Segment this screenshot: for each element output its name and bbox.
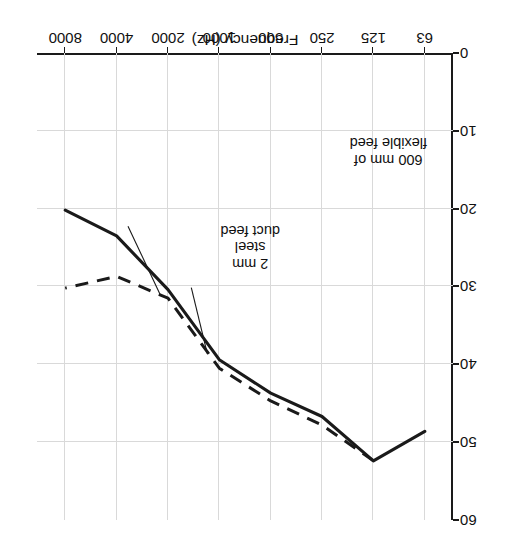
figure-root: 0102030405060 63125250500100020004000800… (0, 0, 517, 541)
series-600mm-flexible-feed (65, 276, 373, 460)
leader-line-steel (191, 288, 207, 354)
leader-line-flexible (128, 226, 160, 294)
y-tick-label: 10 (453, 124, 506, 139)
y-tick-label: 60 (453, 513, 506, 528)
y-tick-label: 50 (453, 435, 506, 450)
plot-area: 0102030405060 63125250500100020004000800… (37, 53, 453, 520)
data-curves (37, 53, 453, 520)
annotation-600mm-flexible-feed: 600 mm of flexible feed (350, 135, 427, 168)
y-tick-label: 40 (453, 357, 506, 372)
y-tick-label: 20 (453, 202, 506, 217)
y-tick-label: 0 (453, 46, 506, 61)
x-axis-title: Frequency (Hz) (37, 31, 453, 49)
y-tick-label: 30 (453, 280, 506, 295)
annotation-2mm-steel-duct-feed: 2 mm steel duct feed (220, 223, 280, 273)
